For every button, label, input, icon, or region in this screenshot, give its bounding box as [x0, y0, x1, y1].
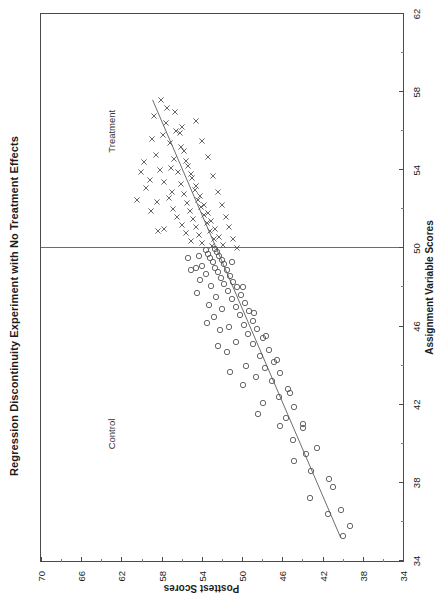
y-tick	[222, 559, 223, 562]
group-label-treatment: Treatment	[106, 110, 117, 153]
data-point-treatment	[167, 165, 174, 172]
y-tick	[383, 559, 384, 562]
regression-fit-line	[41, 14, 403, 561]
data-point-control	[198, 263, 205, 270]
x-tick	[401, 287, 404, 288]
y-tick-label: 62	[116, 571, 127, 582]
x-tick-label: 62	[411, 9, 422, 20]
data-point-control	[245, 331, 252, 338]
data-point-control	[254, 325, 261, 332]
data-point-control	[240, 382, 247, 389]
data-point-treatment	[204, 210, 211, 217]
data-point-treatment	[168, 188, 175, 195]
data-point-treatment	[177, 143, 184, 150]
data-point-control	[229, 296, 236, 303]
y-axis-title: Posttest Scores	[82, 583, 322, 594]
data-point-treatment	[162, 120, 169, 127]
y-tick	[182, 559, 183, 562]
data-point-control	[205, 302, 212, 309]
y-tick-label: 58	[156, 571, 167, 582]
y-tick-label: 54	[196, 571, 207, 582]
x-tick	[401, 443, 404, 444]
data-point-treatment	[137, 169, 144, 176]
data-point-treatment	[156, 167, 163, 174]
data-point-control	[291, 458, 298, 465]
data-point-treatment	[223, 214, 230, 221]
data-point-control	[255, 411, 262, 418]
data-point-treatment	[204, 153, 211, 160]
data-point-control	[250, 341, 257, 348]
data-point-control	[257, 352, 264, 359]
x-tick	[401, 521, 404, 522]
data-point-treatment	[142, 184, 149, 191]
rotated-figure: Regression Discontinuity Experiment with…	[0, 0, 440, 612]
data-point-treatment	[200, 202, 207, 209]
y-tick-label: 42	[317, 571, 328, 582]
data-point-treatment	[219, 202, 226, 209]
data-point-control	[210, 313, 217, 320]
data-point-control	[290, 436, 297, 443]
y-tick	[343, 559, 344, 562]
x-tick	[399, 247, 404, 248]
data-point-control	[214, 343, 221, 350]
data-point-treatment	[147, 208, 154, 215]
data-point-control	[339, 532, 346, 539]
y-tick-label: 50	[237, 571, 248, 582]
data-point-treatment	[153, 198, 160, 205]
data-point-treatment	[230, 235, 237, 242]
data-point-treatment	[182, 157, 189, 164]
data-point-treatment	[170, 155, 177, 162]
data-point-treatment	[220, 241, 227, 248]
data-point-control	[337, 507, 344, 514]
data-point-treatment	[234, 245, 241, 252]
data-point-treatment	[178, 222, 185, 229]
data-point-control	[202, 270, 209, 277]
x-tick	[401, 365, 404, 366]
x-tick	[399, 326, 404, 327]
data-point-control	[313, 444, 320, 451]
data-point-treatment	[186, 208, 193, 215]
data-point-treatment	[133, 196, 140, 203]
data-point-control	[216, 327, 223, 334]
data-point-control	[277, 423, 284, 430]
data-point-treatment	[160, 179, 167, 186]
data-point-control	[346, 522, 353, 529]
data-point-control	[243, 362, 250, 369]
data-point-control	[303, 450, 310, 457]
data-point-treatment	[173, 214, 180, 221]
data-point-control	[196, 276, 203, 283]
data-point-treatment	[215, 233, 222, 240]
data-point-control	[226, 323, 233, 330]
data-point-treatment	[154, 227, 161, 234]
x-tick-label: 38	[411, 478, 422, 489]
data-point-control	[229, 259, 236, 266]
data-point-treatment	[189, 216, 196, 223]
data-point-control	[233, 339, 240, 346]
data-point-treatment	[177, 180, 184, 187]
data-point-control	[241, 321, 248, 328]
x-tick	[401, 52, 404, 53]
x-tick-label: 46	[411, 321, 422, 332]
data-point-treatment	[166, 139, 173, 146]
data-point-treatment	[214, 188, 221, 195]
y-tick	[282, 557, 283, 562]
data-point-treatment	[169, 206, 176, 213]
data-point-treatment	[163, 104, 170, 111]
data-point-treatment	[198, 239, 205, 246]
data-point-treatment	[180, 190, 187, 197]
x-tick	[399, 404, 404, 405]
data-point-control	[233, 304, 240, 311]
data-point-control	[187, 266, 194, 273]
data-point-treatment	[157, 96, 164, 103]
data-point-control	[308, 468, 315, 475]
x-tick-label: 42	[411, 399, 422, 410]
y-tick	[41, 557, 42, 562]
data-point-control	[224, 348, 231, 355]
data-point-control	[300, 421, 307, 428]
data-point-control	[203, 319, 210, 326]
chart-title: Regression Discontinuity Experiment with…	[8, 0, 20, 612]
y-tick	[101, 559, 102, 562]
data-point-treatment	[211, 225, 218, 232]
data-point-control	[184, 255, 191, 262]
x-tick	[399, 13, 404, 14]
